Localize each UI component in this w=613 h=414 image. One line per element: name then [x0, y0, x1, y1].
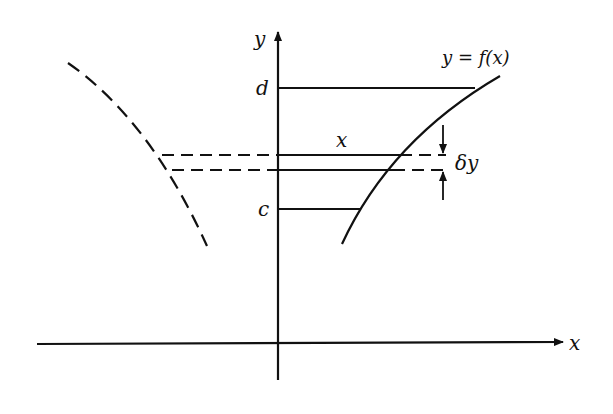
y-axis-label: y [253, 27, 266, 51]
delta-y-label: δy [455, 151, 479, 175]
x-axis [37, 342, 563, 344]
curve-label: y = f(x) [441, 47, 510, 68]
diagram-canvas: y x y = f(x) d c x δy [0, 0, 613, 414]
strip-width-label: x [336, 128, 347, 152]
level-d-label: d [256, 76, 269, 100]
x-axis-label: x [569, 331, 580, 355]
level-c-label: c [258, 197, 269, 221]
